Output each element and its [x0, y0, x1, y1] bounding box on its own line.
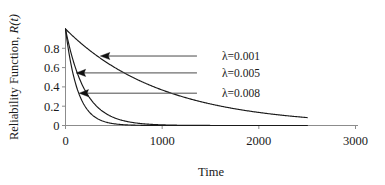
series-label-1: λ=0.005: [222, 67, 260, 79]
y-tick-label: 0: [53, 119, 59, 133]
chart-canvas: 00.20.40.60.8 0100020003000 Time Reliabi…: [0, 0, 385, 185]
y-tick-labels: 00.20.40.60.8: [44, 42, 60, 133]
series-label-0: λ=0.001: [222, 50, 260, 62]
y-axis-title-main: Reliability Function,: [7, 33, 21, 140]
series-curves: [66, 29, 308, 126]
reliability-function-chart: 00.20.40.60.8 0100020003000 Time Reliabi…: [0, 0, 385, 185]
y-axis-ticks: [62, 48, 66, 125]
annotation-arrows: [76, 52, 197, 96]
series-label-2: λ=0.008: [222, 87, 260, 99]
y-tick-label: 0.8: [44, 42, 60, 56]
x-tick-label: 3000: [343, 134, 368, 148]
x-tick-labels: 0100020003000: [62, 134, 368, 148]
x-tick-label: 0: [62, 134, 68, 148]
curve-1: [66, 29, 308, 126]
x-tick-label: 1000: [150, 134, 175, 148]
series-labels: λ=0.001λ=0.005λ=0.008: [222, 50, 260, 99]
y-axis-title-italic: R(t): [7, 14, 21, 34]
x-tick-label: 2000: [246, 134, 271, 148]
y-tick-label: 0.6: [44, 61, 60, 75]
y-axis-title: Reliability Function, R(t): [7, 14, 21, 140]
x-axis-title: Time: [198, 165, 224, 179]
annotation-arrowhead-1: [76, 69, 86, 76]
annotation-arrowhead-2: [79, 90, 89, 97]
y-tick-label: 0.2: [44, 100, 60, 114]
y-tick-label: 0.4: [44, 80, 60, 94]
